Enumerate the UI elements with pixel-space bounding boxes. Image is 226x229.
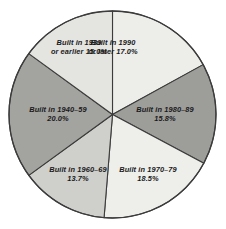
slice-label-line-1: Built in 1939 — [40, 38, 118, 47]
slice-label-1940-59: Built in 1940–59 20.0% — [20, 105, 96, 123]
slice-label-line-2: 20.0% — [20, 114, 96, 123]
slice-label-line-2: 15.8% — [127, 114, 203, 123]
slice-label-1980-89: Built in 1980–89 15.8% — [127, 105, 203, 123]
slice-label-line-1: Built in 1970–79 — [110, 165, 186, 174]
slice-label-line-2: 18.5% — [110, 174, 186, 183]
slice-label-line-2: 13.7% — [40, 174, 116, 183]
slice-label-line-1: Built in 1980–89 — [127, 105, 203, 114]
slice-label-line-1: Built in 1940–59 — [20, 105, 96, 114]
slice-label-1939-or-earlier: Built in 1939 or earlier 15.0% — [40, 38, 118, 56]
slice-label-1970-79: Built in 1970–79 18.5% — [110, 165, 186, 183]
slice-label-1960-69: Built in 1960–69 13.7% — [40, 165, 116, 183]
slice-label-line-1: Built in 1960–69 — [40, 165, 116, 174]
slice-label-line-2: or earlier 15.0% — [40, 47, 118, 56]
pie-chart-figure: Built in 1990 or later 17.0% Built in 19… — [0, 0, 226, 229]
